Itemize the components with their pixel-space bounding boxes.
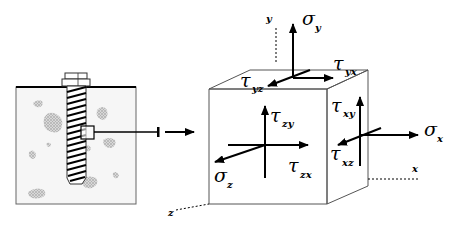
svg-text:τ: τ xyxy=(333,52,344,74)
tau-xz-label: τ xz xyxy=(330,142,354,168)
svg-text:xy: xy xyxy=(342,108,356,119)
svg-text:τ: τ xyxy=(330,142,341,164)
svg-text:z: z xyxy=(226,179,233,190)
tau-yz-label: τ yz xyxy=(240,69,264,94)
svg-text:yx: yx xyxy=(344,66,358,77)
svg-text:σ: σ xyxy=(302,7,316,29)
svg-text:zx: zx xyxy=(299,169,313,180)
detail-marker xyxy=(81,126,94,139)
axis-label-y: y xyxy=(265,13,273,24)
svg-text:zy: zy xyxy=(281,118,295,129)
svg-text:yz: yz xyxy=(251,83,264,94)
tau-xy-label: τ xy xyxy=(331,94,356,119)
axis-label-z: z xyxy=(167,207,174,218)
svg-text:xz: xz xyxy=(341,157,354,168)
axis-label-x: x xyxy=(411,163,419,174)
stress-cube xyxy=(209,70,368,204)
tau-zy-label: τ zy xyxy=(270,104,295,129)
tau-yx-label: τ yx xyxy=(333,52,358,77)
svg-text:σ: σ xyxy=(424,118,438,140)
top-face-arrows xyxy=(268,24,333,86)
svg-text:τ: τ xyxy=(331,94,342,116)
svg-text:τ: τ xyxy=(240,69,251,91)
axis-lines xyxy=(176,28,420,210)
stress-element-diagram: y x z σ y τ yx τ yz τ zy τ zx σ z xyxy=(0,0,458,227)
svg-text:τ: τ xyxy=(270,104,281,126)
svg-text:σ: σ xyxy=(214,164,228,186)
sigma-z-label: σ z xyxy=(214,164,233,190)
svg-text:y: y xyxy=(314,22,322,33)
svg-text:τ: τ xyxy=(288,154,299,176)
sigma-x-label: σ x xyxy=(424,118,444,144)
sigma-y-label: σ y xyxy=(302,7,322,33)
tau-zx-label: τ zx xyxy=(288,154,313,180)
svg-text:x: x xyxy=(436,133,444,144)
